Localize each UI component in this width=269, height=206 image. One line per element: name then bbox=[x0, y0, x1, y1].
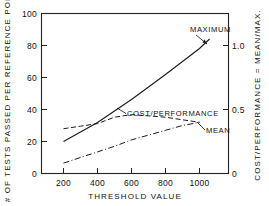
x-tick-label-1000: 1000 bbox=[189, 178, 209, 188]
left-tick-label-60: 60 bbox=[27, 73, 37, 83]
left-tick-label-0: 0 bbox=[32, 169, 37, 179]
left-tick-label-80: 80 bbox=[27, 41, 37, 51]
annotation-cost-performance-leader bbox=[117, 108, 126, 114]
x-tick-label-200: 200 bbox=[56, 178, 71, 188]
chart-figure: 0 20 40 60 80 100 0 0.5 1.0 200 400 600 … bbox=[0, 0, 269, 206]
x-axis-tick-labels: 200 400 600 800 1000 bbox=[56, 178, 210, 188]
left-axis-ticks bbox=[42, 14, 48, 174]
right-tick-label-05: 0.5 bbox=[232, 105, 245, 115]
annotation-mean-label: MEAN bbox=[206, 126, 230, 135]
y2-axis-title: COST/PERFORMANCE = MEAN/MAX. bbox=[253, 9, 262, 180]
x-tick-label-400: 400 bbox=[90, 178, 105, 188]
right-axis-tick-labels: 0 0.5 1.0 bbox=[232, 41, 245, 179]
left-tick-label-40: 40 bbox=[27, 105, 37, 115]
x-tick-label-800: 800 bbox=[158, 178, 173, 188]
right-tick-label-10: 1.0 bbox=[232, 41, 245, 51]
x-tick-label-600: 600 bbox=[124, 178, 139, 188]
annotation-mean-leader bbox=[197, 122, 205, 130]
x-axis-title: THRESHOLD VALUE bbox=[88, 192, 182, 201]
plot-frame bbox=[42, 14, 229, 174]
left-tick-label-20: 20 bbox=[27, 137, 37, 147]
left-tick-label-100: 100 bbox=[22, 9, 37, 19]
x-axis-ticks bbox=[64, 168, 200, 174]
right-tick-label-0: 0 bbox=[232, 169, 237, 179]
mean-curve bbox=[64, 122, 200, 163]
left-axis-tick-labels: 0 20 40 60 80 100 bbox=[22, 9, 37, 179]
annotation-cost-performance-label: COST/PERFORMANCE bbox=[127, 109, 219, 118]
y-axis-title: # OF TESTS PASSED PER REFERENCE POINT bbox=[3, 0, 12, 202]
maximum-curve bbox=[64, 39, 210, 142]
annotation-maximum-label: MAXIMUM bbox=[190, 25, 231, 34]
chart-svg: 0 20 40 60 80 100 0 0.5 1.0 200 400 600 … bbox=[0, 0, 269, 206]
right-axis-ticks bbox=[223, 46, 229, 174]
